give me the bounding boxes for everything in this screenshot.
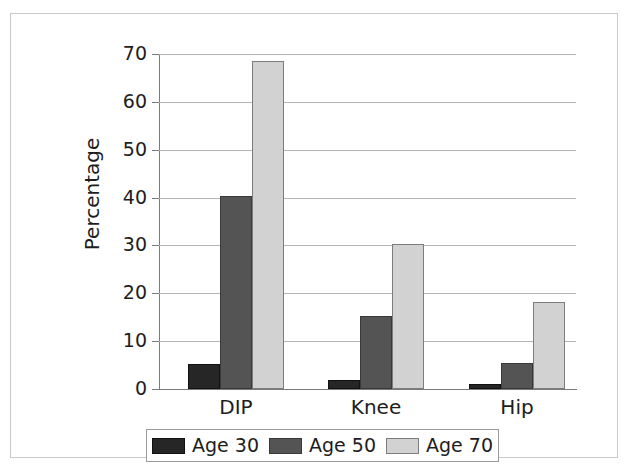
bar-dip-age-30 [188, 364, 220, 389]
plot-area [159, 54, 576, 389]
legend-swatch-icon [386, 438, 419, 454]
y-axis-title: Percentage [80, 99, 104, 289]
y-axis-tick-labels: 010203040506070 [99, 14, 147, 469]
y-axis-tick [152, 341, 159, 342]
figure-frame: 010203040506070 Percentage DIPKneeHip Ag… [10, 13, 618, 458]
x-axis-tick-label-hip: Hip [457, 395, 577, 419]
y-axis-tick-label: 30 [103, 235, 147, 254]
y-axis-tick [152, 54, 159, 55]
y-axis-tick [152, 102, 159, 103]
bar-knee-age-50 [360, 316, 392, 389]
chart-legend: Age 30Age 50Age 70 [146, 429, 499, 462]
legend-swatch-icon [152, 438, 185, 454]
bar-hip-age-70 [533, 302, 565, 389]
legend-item-age-50[interactable]: Age 50 [269, 436, 376, 455]
y-axis-tick [152, 389, 159, 390]
y-axis-tick [152, 245, 159, 246]
legend-item-age-30[interactable]: Age 30 [152, 436, 259, 455]
y-axis-tick [152, 198, 159, 199]
x-axis-tick-label-knee: Knee [316, 395, 436, 419]
y-axis-tick-label: 10 [103, 331, 147, 350]
y-axis-tick-label: 60 [103, 92, 147, 111]
bar-hip-age-30 [469, 384, 501, 389]
bar-hip-age-50 [501, 363, 533, 389]
legend-label: Age 50 [309, 436, 376, 455]
x-axis-line [159, 389, 577, 390]
y-axis-tick-label: 40 [103, 188, 147, 207]
bar-dip-age-70 [252, 61, 284, 389]
legend-label: Age 70 [426, 436, 493, 455]
y-axis-tick-label: 0 [103, 379, 147, 398]
bar-knee-age-30 [328, 380, 360, 389]
bar-dip-age-50 [220, 196, 252, 389]
legend-swatch-icon [269, 438, 302, 454]
y-axis-tick [152, 150, 159, 151]
legend-label: Age 30 [192, 436, 259, 455]
legend-item-age-70[interactable]: Age 70 [386, 436, 493, 455]
y-axis-tick [152, 293, 159, 294]
y-axis-tick-label: 20 [103, 283, 147, 302]
y-axis-tick-label: 50 [103, 140, 147, 159]
x-axis-tick-label-dip: DIP [176, 395, 296, 419]
bar-knee-age-70 [392, 244, 424, 389]
y-axis-tick-label: 70 [103, 44, 147, 63]
